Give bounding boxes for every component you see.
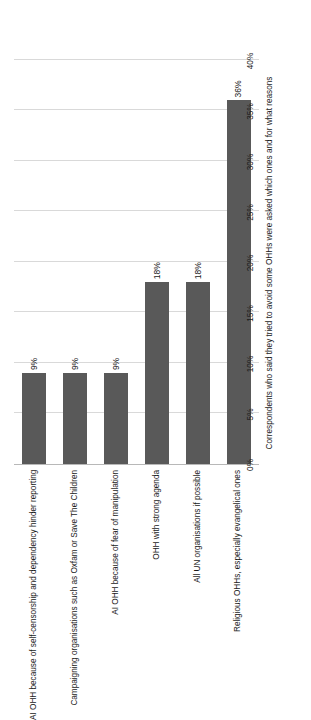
gridline xyxy=(14,413,259,414)
bar-row: AI OHH because of self-censorship and de… xyxy=(22,358,46,464)
bar-row: OHH with strong agenda18% xyxy=(145,262,169,464)
bar-row: AI OHH because of fear of manipulation9% xyxy=(104,358,128,464)
x-tick-label: 35% xyxy=(247,103,255,119)
category-label: Campaigning organisations such as Oxfam … xyxy=(71,464,79,720)
bar-value-label: 36% xyxy=(234,80,243,97)
x-axis-title: Correspondents who said they tried to av… xyxy=(266,61,274,465)
bar-row: Campaigning organisations such as Oxfam … xyxy=(63,358,87,464)
gridline xyxy=(14,211,259,212)
category-label: OHH with strong agenda xyxy=(153,464,161,720)
x-tick-label: 10% xyxy=(247,356,255,372)
bar xyxy=(63,373,87,464)
plot-area: AI OHH because of self-censorship and de… xyxy=(14,60,259,465)
bar xyxy=(22,373,46,464)
bar xyxy=(186,282,210,464)
gridline xyxy=(14,261,259,262)
category-label: Religious OHHs, especially evangelical o… xyxy=(234,464,242,720)
bar xyxy=(104,373,128,464)
gridline xyxy=(14,110,259,111)
gridline xyxy=(14,312,259,313)
x-tick-label: 5% xyxy=(247,409,255,421)
bar-row: Religious OHHs, especially evangelical o… xyxy=(227,80,251,464)
category-label: All UN organisations if possible xyxy=(194,464,202,720)
category-label: AI OHH because of fear of manipulation xyxy=(112,464,120,720)
bar-row: All UN organisations if possible18% xyxy=(186,262,210,464)
gridline xyxy=(14,160,259,161)
x-tick-label: 20% xyxy=(247,255,255,271)
x-tick-label: 25% xyxy=(247,204,255,220)
bar-value-label: 18% xyxy=(153,262,162,279)
x-tick-label: 0% xyxy=(247,459,255,471)
x-tick-label: 30% xyxy=(247,154,255,170)
x-tick-label: 15% xyxy=(247,305,255,321)
x-tick-label: 40% xyxy=(247,53,255,69)
bar-value-label: 9% xyxy=(30,358,39,370)
bar-value-label: 9% xyxy=(112,358,121,370)
gridline xyxy=(14,362,259,363)
category-label: AI OHH because of self-censorship and de… xyxy=(30,464,38,720)
gridline xyxy=(14,59,259,60)
bar-value-label: 9% xyxy=(71,358,80,370)
bar-value-label: 18% xyxy=(194,262,203,279)
bar xyxy=(145,282,169,464)
